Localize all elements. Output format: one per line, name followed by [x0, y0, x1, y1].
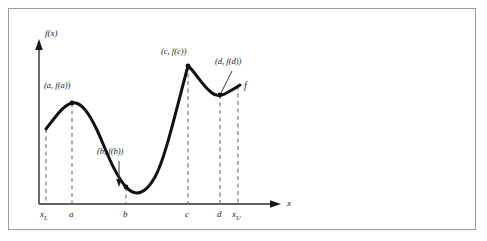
- tick-label-xU-sub: U: [236, 214, 241, 221]
- point-label-a: (a, f(a)): [44, 81, 70, 90]
- tick-label-d: d: [217, 210, 222, 219]
- figure-frame: f(x) x (a, f(a)) (b, f(b)) (c, f(c)) (d,…: [8, 8, 476, 230]
- marker-c: [186, 64, 191, 69]
- extremum-markers: [70, 64, 223, 190]
- x-axis: [39, 200, 281, 208]
- point-label-d: (d, f(d)): [215, 57, 241, 66]
- tick-label-xL-sub: L: [44, 214, 48, 221]
- function-curve: [46, 66, 240, 193]
- x-axis-label: x: [287, 199, 291, 208]
- function-plot: [9, 9, 477, 231]
- point-label-b: (b, f(b)): [97, 147, 123, 156]
- tick-label-b: b: [123, 210, 128, 219]
- y-axis: [35, 39, 43, 204]
- drop-lines: [46, 66, 238, 204]
- tick-label-xU: xU: [232, 210, 241, 221]
- marker-d: [218, 93, 223, 98]
- marker-b: [124, 185, 129, 190]
- tick-label-a: a: [69, 210, 74, 219]
- tick-label-xL: xL: [40, 210, 48, 221]
- y-axis-label: f(x): [45, 29, 58, 38]
- figure-page: f(x) x (a, f(a)) (b, f(b)) (c, f(c)) (d,…: [0, 0, 487, 241]
- tick-label-c: c: [185, 210, 189, 219]
- curve-label-f: f: [244, 81, 247, 91]
- marker-a: [70, 101, 75, 106]
- point-label-c: (c, f(c)): [161, 47, 186, 56]
